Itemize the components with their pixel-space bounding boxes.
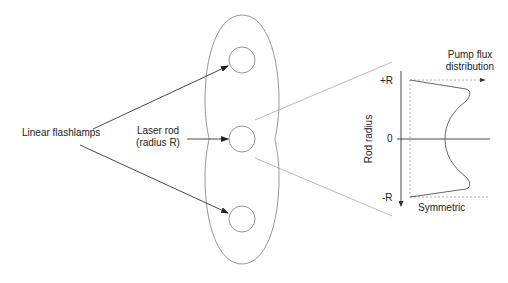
flashlamp-bottom [229, 206, 255, 232]
laser-rod-label-line1: Laser rod [131, 125, 185, 137]
pump-flux-label-line2: distribution [432, 61, 508, 73]
arrow-to-top-lamp [93, 66, 228, 129]
laser-rod [229, 126, 255, 152]
diagram-canvas [0, 0, 508, 283]
dashed-top-arrowhead [480, 78, 486, 82]
arrow-to-bottom-lamp [80, 145, 228, 213]
pump-flux-curve [410, 80, 470, 197]
plus-r-tick: +R [380, 75, 393, 87]
flashlamps-label: Linear flashlamps [22, 127, 100, 139]
pump-flux-label: Pump flux distribution [432, 49, 508, 73]
rod-radius-axis-label: Rod radius [363, 110, 375, 168]
symmetric-label: Symmetric [418, 202, 465, 214]
flashlamp-top [229, 47, 255, 73]
pump-flux-label-line1: Pump flux [432, 49, 508, 61]
minus-r-tick: -R [382, 192, 393, 204]
laser-rod-label: Laser rod (radius R) [131, 125, 185, 149]
cavity-reflector [205, 15, 279, 264]
zero-tick: 0 [387, 133, 393, 145]
laser-rod-label-line2: (radius R) [131, 137, 185, 149]
